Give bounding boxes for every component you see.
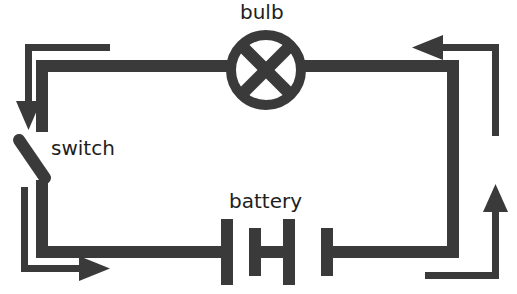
battery-plate-long-2 [283, 219, 295, 285]
arrow-bottom-right-vertical-tail [492, 212, 499, 279]
wire-right-vertical [447, 60, 459, 258]
battery-plate-short-2 [321, 228, 333, 276]
arrow-top-left-horizontal-tail [25, 44, 110, 51]
arrow-bottom-right-head [483, 184, 508, 212]
battery-label: battery [229, 191, 302, 211]
switch-symbol[interactable] [19, 140, 45, 178]
arrow-top-left [16, 44, 110, 130]
wire-top-right-segment [297, 60, 459, 72]
arrow-bottom-right-horizontal-tail [425, 272, 499, 279]
bulb-label: bulb [240, 2, 284, 22]
wire-bottom-right-segment [330, 246, 459, 258]
arrow-bottom-left-head [79, 256, 110, 281]
battery-symbol [221, 219, 333, 285]
arrow-top-right-horizontal-tail [443, 44, 499, 51]
arrow-top-right-head [412, 35, 443, 60]
wire-top-left-segment [36, 60, 236, 72]
wire-left-lower-vertical [36, 180, 48, 258]
circuit-diagram-canvas: bulb switch battery [0, 0, 517, 294]
switch-label: switch [51, 138, 115, 158]
wire-left-upper-vertical [36, 60, 48, 132]
battery-plate-long-1 [221, 219, 233, 285]
arrow-bottom-right [425, 184, 508, 279]
arrow-bottom-left [21, 187, 110, 281]
wire-bottom-left-segment [36, 246, 221, 258]
arrow-top-left-vertical-tail [25, 44, 32, 107]
arrow-top-right-vertical-tail [492, 44, 499, 136]
arrow-bottom-left-horizontal-tail [21, 265, 79, 272]
switch-lever[interactable] [19, 140, 45, 178]
bulb-symbol [231, 35, 301, 105]
arrow-bottom-left-vertical-tail [21, 187, 28, 272]
battery-interconnect-1 [258, 246, 286, 258]
